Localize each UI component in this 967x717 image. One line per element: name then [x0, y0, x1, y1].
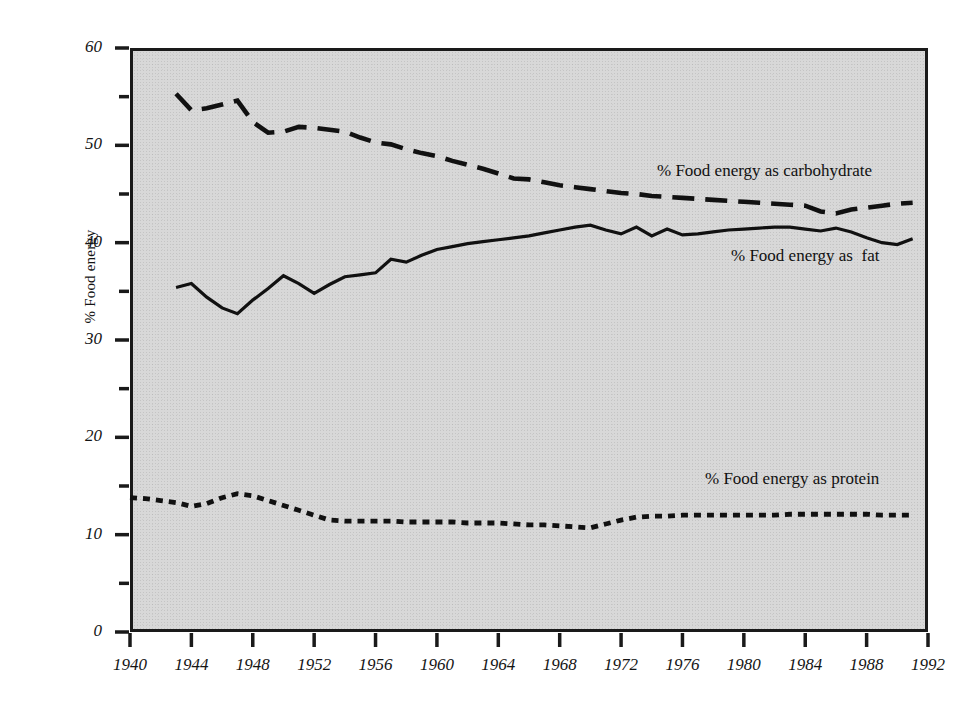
- x-tick-label: 1968: [530, 656, 590, 674]
- x-tick-label: 1976: [652, 656, 712, 674]
- chart-figure: 0102030405060 19401944194819521956196019…: [0, 0, 967, 717]
- x-tick-label: 1972: [591, 656, 651, 674]
- x-tick-label: 1980: [714, 656, 774, 674]
- x-tick-label: 1948: [223, 656, 283, 674]
- series-label-protein: % Food energy as protein: [705, 469, 879, 489]
- x-tick-label: 1940: [100, 656, 160, 674]
- x-tick-label: 1956: [346, 656, 406, 674]
- x-tick-label: 1964: [468, 656, 528, 674]
- x-tick-label: 1984: [775, 656, 835, 674]
- y-tick-label: 0: [62, 622, 102, 639]
- plot-background-texture: [133, 51, 925, 629]
- x-tick-label: 1952: [284, 656, 344, 674]
- series-label-fat: % Food energy as fat: [731, 246, 879, 266]
- x-tick-label: 1944: [161, 656, 221, 674]
- y-tick-label: 10: [62, 525, 102, 542]
- y-tick-label: 50: [62, 135, 102, 152]
- x-tick-label: 1992: [898, 656, 958, 674]
- x-tick-label: 1960: [407, 656, 467, 674]
- plot-area: [130, 48, 928, 632]
- series-label-carbohydrate: % Food energy as carbohydrate: [657, 161, 872, 181]
- y-tick-label: 20: [62, 427, 102, 444]
- y-axis-title: % Food energy: [82, 197, 99, 357]
- x-tick-label: 1988: [837, 656, 897, 674]
- y-tick-label: 60: [62, 38, 102, 55]
